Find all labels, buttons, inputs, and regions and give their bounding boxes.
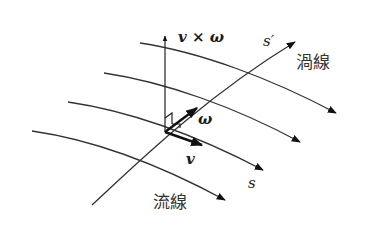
label-s-prime: s′ xyxy=(263,32,275,50)
omega-vector xyxy=(165,108,197,132)
streamline-4 xyxy=(32,131,225,200)
label-s: s xyxy=(248,174,256,192)
label-v: v xyxy=(186,150,195,168)
label-v-cross-omega: v × ω xyxy=(178,28,224,46)
label-streamline: 流線 xyxy=(153,192,187,212)
vorticity-diagram: v × ω ω v s s′ 渦線 流線 xyxy=(0,0,380,236)
label-omega: ω xyxy=(198,110,212,128)
label-vortex-line: 渦線 xyxy=(296,52,330,72)
